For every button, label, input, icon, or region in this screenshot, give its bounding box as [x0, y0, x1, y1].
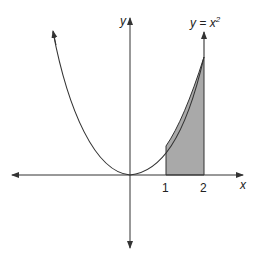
parabola-diagram: 1 2 x y y = x2	[0, 0, 255, 253]
x-axis-label: x	[239, 178, 247, 192]
shaded-area	[166, 57, 204, 175]
y-axis-label: y	[119, 14, 127, 28]
function-exponent: 2	[215, 15, 221, 24]
tick-label-1: 1	[162, 181, 169, 195]
parabola-left-arrow	[53, 31, 56, 45]
function-label: y = x2	[189, 15, 221, 30]
tick-label-2: 2	[200, 181, 207, 195]
